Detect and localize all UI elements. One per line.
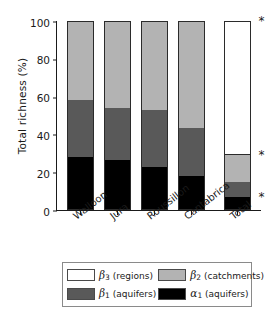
legend-swatch-beta3 xyxy=(67,269,95,281)
y-axis-tick-label: 20 xyxy=(37,167,50,179)
y-axis-tick-mark xyxy=(53,211,57,212)
bar-segment-b1 xyxy=(178,128,205,176)
y-axis-tick-label: 80 xyxy=(37,54,50,66)
y-axis-tick: 60 xyxy=(37,87,57,106)
y-axis-tick-label: 60 xyxy=(37,92,50,104)
bar-segment-b2 xyxy=(178,21,205,128)
legend-item-alpha1: α1 (aquifers) xyxy=(158,288,264,300)
significance-asterisk: * xyxy=(259,15,265,27)
significance-asterisk: * xyxy=(259,149,265,161)
bar-segment-b2 xyxy=(224,155,251,181)
y-axis-tick: 0 xyxy=(43,201,57,220)
legend-label-alpha1: α1 (aquifers) xyxy=(190,288,248,300)
legend-swatch-beta1 xyxy=(67,288,95,300)
bar-segment-b2 xyxy=(141,21,168,110)
y-axis-tick-label: 100 xyxy=(30,16,50,28)
bar-segment-b1 xyxy=(104,108,131,160)
y-axis-tick-label: 0 xyxy=(43,205,50,217)
bar-total[interactable] xyxy=(224,21,251,210)
legend-label-beta3: β3 (regions) xyxy=(99,270,153,282)
legend-item-beta1: β1 (aquifers) xyxy=(67,288,156,300)
plot-area: 020406080100 xyxy=(57,21,271,210)
y-axis-tick: 100 xyxy=(30,12,57,31)
legend-label-beta1: β1 (aquifers) xyxy=(99,288,156,300)
legend-swatch-alpha1 xyxy=(158,288,186,300)
bar-segment-a1 xyxy=(104,160,131,210)
y-axis-title: Total richness (%) xyxy=(16,21,28,191)
y-axis-tick: 20 xyxy=(37,163,57,182)
bar-segment-b2 xyxy=(67,21,94,100)
y-axis-tick-mark xyxy=(53,22,57,23)
y-axis-tick-label: 40 xyxy=(37,129,50,141)
legend-label-beta2: β2 (catchments) xyxy=(190,270,264,282)
y-axis-tick-mark xyxy=(53,97,57,98)
bar-segment-b1 xyxy=(141,110,168,167)
bar-segment-b3 xyxy=(224,21,251,155)
legend-item-beta2: β2 (catchments) xyxy=(158,269,264,281)
bar-segment-b1 xyxy=(67,100,94,157)
bar-walloon[interactable] xyxy=(67,21,94,210)
bar-roussillon[interactable] xyxy=(141,21,168,210)
y-axis-tick: 40 xyxy=(37,125,57,144)
y-axis-tick-mark xyxy=(53,135,57,136)
bar-cantabrica[interactable] xyxy=(178,21,205,210)
bar-jura[interactable] xyxy=(104,21,131,210)
legend-item-beta3: β3 (regions) xyxy=(67,269,156,281)
bar-segment-b2 xyxy=(104,21,131,108)
chart-legend: β3 (regions) β2 (catchments) β1 (aquifer… xyxy=(62,262,252,307)
legend-swatch-beta2 xyxy=(158,269,186,281)
stacked-bar-chart-figure: Total richness (%) 020406080100 β3 (regi… xyxy=(0,0,277,321)
y-axis-tick: 80 xyxy=(37,49,57,68)
y-axis-tick-mark xyxy=(53,59,57,60)
y-axis-tick-mark xyxy=(53,173,57,174)
significance-asterisk: * xyxy=(259,191,265,203)
